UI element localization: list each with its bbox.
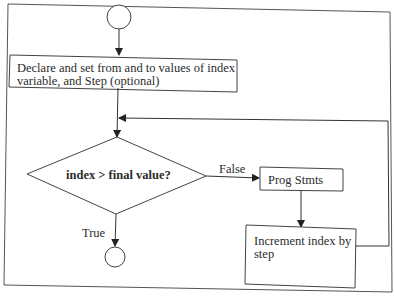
increment-label-line2: step: [254, 247, 274, 261]
end-terminal: [105, 247, 125, 267]
flowchart-canvas: [0, 0, 394, 296]
prog-stmts-label: Prog Stmts: [268, 173, 323, 187]
start-terminal: [107, 5, 131, 29]
init-label-line1: Declare and set from and to values of in…: [17, 61, 235, 75]
init-label-line2: variable, and Step (optional): [17, 74, 159, 88]
false-edge-label: False: [219, 162, 245, 176]
condition-label: index > final value?: [66, 168, 171, 182]
edge-cond-body-false: [206, 176, 259, 178]
increment-label-line1: Increment index by: [254, 234, 351, 248]
edge-init-cond: [117, 88, 118, 137]
edge-cond-end-true: [115, 214, 116, 246]
true-edge-label: True: [82, 226, 105, 240]
